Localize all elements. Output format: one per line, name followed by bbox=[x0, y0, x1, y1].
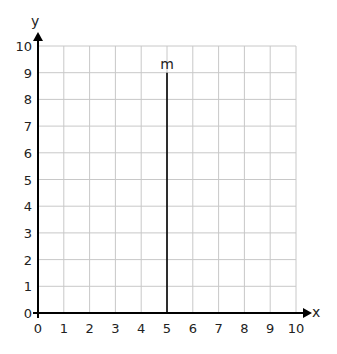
x-tick-label: 9 bbox=[266, 321, 274, 336]
coordinate-grid: 012345678910012345678910 m x y bbox=[0, 0, 337, 354]
x-tick-label: 8 bbox=[240, 321, 248, 336]
x-tick-label: 2 bbox=[85, 321, 93, 336]
x-tick-label: 5 bbox=[163, 321, 171, 336]
y-tick-label: 4 bbox=[24, 199, 32, 214]
series-lines: m bbox=[160, 56, 174, 313]
y-axis-label: y bbox=[31, 13, 39, 29]
x-tick-label: 10 bbox=[288, 321, 305, 336]
x-tick-label: 4 bbox=[137, 321, 145, 336]
y-tick-label: 6 bbox=[24, 146, 32, 161]
y-tick-label: 9 bbox=[24, 66, 32, 81]
y-tick-label: 10 bbox=[15, 39, 32, 54]
y-tick-label: 3 bbox=[24, 226, 32, 241]
tick-labels: 012345678910012345678910 bbox=[15, 39, 304, 336]
x-tick-label: 1 bbox=[60, 321, 68, 336]
line-label-m: m bbox=[160, 56, 174, 72]
y-tick-label: 7 bbox=[24, 119, 32, 134]
x-axis-label: x bbox=[312, 304, 320, 320]
x-tick-label: 7 bbox=[214, 321, 222, 336]
y-tick-label: 1 bbox=[24, 279, 32, 294]
y-tick-label: 5 bbox=[24, 173, 32, 188]
y-tick-label: 2 bbox=[24, 253, 32, 268]
x-axis-arrow-icon bbox=[303, 308, 312, 318]
x-tick-label: 0 bbox=[34, 321, 42, 336]
x-tick-label: 3 bbox=[111, 321, 119, 336]
y-axis-arrow-icon bbox=[33, 32, 43, 41]
x-tick-label: 6 bbox=[189, 321, 197, 336]
y-tick-label: 0 bbox=[24, 306, 32, 321]
y-tick-label: 8 bbox=[24, 92, 32, 107]
